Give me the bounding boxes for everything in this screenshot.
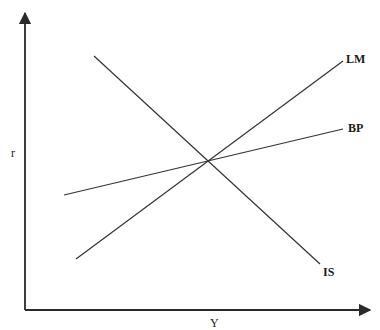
- bp-label: BP: [348, 121, 363, 135]
- x-axis-label: Y: [210, 316, 219, 330]
- is-label: IS: [323, 265, 335, 279]
- y-axis-label: r: [11, 146, 15, 160]
- lm-label: LM: [346, 52, 365, 66]
- is-curve: [94, 56, 320, 264]
- bp-curve: [64, 129, 343, 195]
- is-lm-bp-diagram: r Y LM BP IS: [0, 0, 380, 330]
